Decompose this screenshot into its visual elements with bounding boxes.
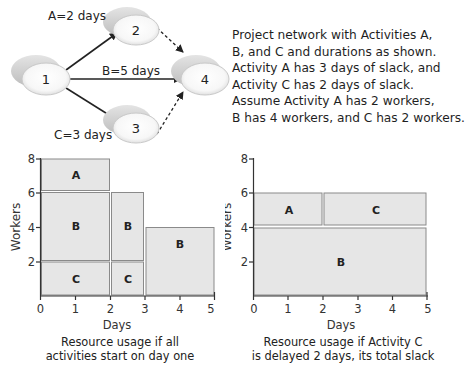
y-tick-label: 8 xyxy=(28,152,35,166)
y-axis-label: Workers xyxy=(9,203,23,252)
network-node-4: 4 xyxy=(171,55,229,95)
chart-blocks xyxy=(254,193,426,295)
description-line: Project network with Activities A, xyxy=(232,27,465,44)
y-axis-label: Workers xyxy=(225,203,234,252)
resource-chart-c-delayed: A C B 8 6 4 2 0 1 2 3 4 5 Days Workers xyxy=(225,145,462,350)
description-line: Assume Activity A has 2 workers, xyxy=(232,93,465,110)
x-tick-label: 5 xyxy=(207,302,214,316)
y-tick-label: 6 xyxy=(28,186,35,200)
edge-label-b: B=5 days xyxy=(102,64,160,78)
y-tick-label: 4 xyxy=(241,221,248,235)
x-tick-labels: 0 1 2 3 4 5 xyxy=(250,302,431,316)
x-tick-label: 1 xyxy=(284,302,291,316)
y-tick-labels: 8 6 4 2 xyxy=(28,152,35,269)
x-axis-label: Days xyxy=(327,318,356,332)
dummy-edge-3-4 xyxy=(157,92,183,134)
description-line: B has 4 workers, and C has 2 workers. xyxy=(232,110,465,127)
x-tick-labels: 0 1 2 3 4 5 xyxy=(37,302,215,316)
node-label: 1 xyxy=(42,72,50,87)
dummy-edge-2-4 xyxy=(157,28,183,52)
network-node-2: 2 xyxy=(103,7,159,45)
chart-caption-1: Resource usage if all activities start o… xyxy=(10,335,230,363)
block-label-c: C xyxy=(372,204,380,217)
network-node-1: 1 xyxy=(11,55,70,95)
block-label-b: B xyxy=(337,256,345,269)
block-label-a: A xyxy=(72,169,81,182)
y-tick-label: 6 xyxy=(241,186,248,200)
x-tick-label: 2 xyxy=(107,302,114,316)
block-label-b: B xyxy=(72,220,80,233)
x-tick-label: 0 xyxy=(37,302,44,316)
block-label-a: A xyxy=(285,204,294,217)
resource-chart-all-start-day-one: A B C B C B 8 6 4 2 0 1 2 3 4 5 Days Wor… xyxy=(0,145,230,350)
project-network-diagram: 1 2 3 4 A=2 days B=5 days C=3 days xyxy=(0,0,230,150)
x-tick-label: 0 xyxy=(250,302,257,316)
node-label: 2 xyxy=(132,23,140,38)
y-tick-labels: 8 6 4 2 xyxy=(241,152,248,269)
y-tick-label: 4 xyxy=(28,221,35,235)
x-tick-label: 5 xyxy=(424,302,431,316)
y-tick-label: 8 xyxy=(241,152,248,166)
x-tick-label: 1 xyxy=(72,302,79,316)
block-label-b: B xyxy=(176,238,184,251)
y-tick-label: 2 xyxy=(241,255,248,269)
block-label-c: C xyxy=(72,273,80,286)
x-tick-label: 3 xyxy=(354,302,361,316)
x-tick-label: 3 xyxy=(141,302,148,316)
edge-label-c: C=3 days xyxy=(54,128,112,142)
caption-line: Resource usage if Activity C xyxy=(228,335,458,349)
description-line: Activity C has 2 days of slack. xyxy=(232,77,465,94)
node-label: 3 xyxy=(132,121,140,136)
x-axis-label: Days xyxy=(103,318,132,332)
x-tick-label: 4 xyxy=(176,302,183,316)
x-tick-label: 2 xyxy=(319,302,326,316)
x-tick-label: 4 xyxy=(389,302,396,316)
block-label-b: B xyxy=(124,220,132,233)
caption-line: is delayed 2 days, its total slack xyxy=(228,349,458,363)
caption-line: Resource usage if all xyxy=(10,335,230,349)
chart-caption-2: Resource usage if Activity C is delayed … xyxy=(228,335,458,363)
block-label-c: C xyxy=(124,273,132,286)
node-label: 4 xyxy=(201,72,209,87)
description-line: B, and C and durations as shown. xyxy=(232,44,465,61)
edge-label-a: A=2 days xyxy=(48,9,106,23)
description-text: Project network with Activities A, B, an… xyxy=(232,27,465,126)
caption-line: activities start on day one xyxy=(10,349,230,363)
y-tick-label: 2 xyxy=(28,255,35,269)
description-line: Activity A has 3 days of slack, and xyxy=(232,60,465,77)
